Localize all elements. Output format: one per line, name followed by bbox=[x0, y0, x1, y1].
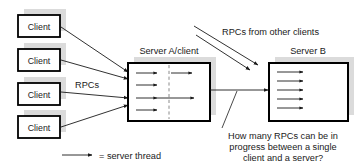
client-list: Client Client Client Client bbox=[18, 9, 66, 138]
rpc-arrow-client-3 bbox=[61, 92, 128, 98]
rpc-arrow-client-4 bbox=[61, 105, 128, 127]
rpc-arrow-client-1 bbox=[61, 27, 128, 72]
client-box-2[interactable]: Client bbox=[18, 43, 66, 71]
client-box-1-label: Client bbox=[28, 22, 51, 32]
rpc-arrow-client-2 bbox=[61, 60, 128, 79]
server-a-group[interactable]: Server A/client bbox=[128, 46, 216, 121]
client-box-3[interactable]: Client bbox=[18, 77, 66, 105]
rpcs-other-clients-label: RPCs from other clients bbox=[222, 27, 319, 37]
client-box-2-label: Client bbox=[28, 56, 51, 66]
client-box-3-label: Client bbox=[28, 90, 51, 100]
annotation-line-3: client and a server? bbox=[243, 153, 323, 163]
client-box-1[interactable]: Client bbox=[18, 9, 66, 37]
client-to-server-a-arrows bbox=[61, 27, 128, 127]
legend: = server thread bbox=[62, 151, 161, 161]
annotation-line-1: How many RPCs can be in bbox=[228, 131, 338, 141]
legend-label: = server thread bbox=[99, 151, 161, 161]
server-b-group[interactable]: Server B bbox=[269, 46, 354, 121]
annotation-line-2: progress between a single bbox=[229, 142, 336, 152]
client-box-4[interactable]: Client bbox=[18, 110, 66, 138]
rpcs-label: RPCs bbox=[75, 80, 99, 90]
server-a-label: Server A/client bbox=[139, 46, 199, 56]
server-b-label: Server B bbox=[290, 46, 326, 56]
annotation-leader-line bbox=[222, 91, 237, 128]
diagram-root: Client Client Client Client bbox=[0, 0, 364, 168]
client-box-4-label: Client bbox=[28, 123, 51, 133]
rpc-threading-diagram: Client Client Client Client bbox=[0, 0, 364, 168]
